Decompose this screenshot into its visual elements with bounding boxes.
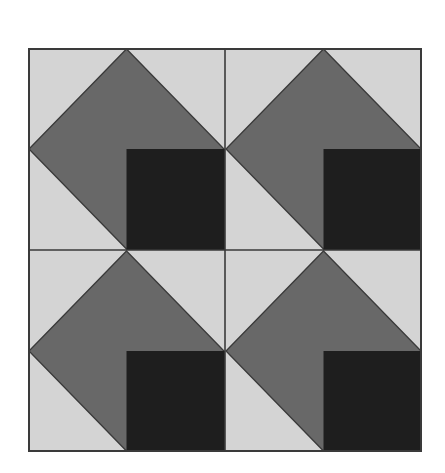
quilt-pattern — [28, 48, 422, 452]
quilt-svg — [28, 48, 422, 452]
dark-square — [127, 351, 226, 452]
canvas: Quilt block pattern (2x2) — [0, 0, 445, 473]
dark-square — [127, 149, 226, 250]
quilt-block-0-0 — [28, 48, 225, 250]
dark-square — [324, 149, 423, 250]
dark-square — [324, 351, 423, 452]
quilt-block-1-0 — [28, 250, 225, 452]
quilt-block-1-1 — [225, 250, 422, 452]
quilt-block-0-1 — [225, 48, 422, 250]
